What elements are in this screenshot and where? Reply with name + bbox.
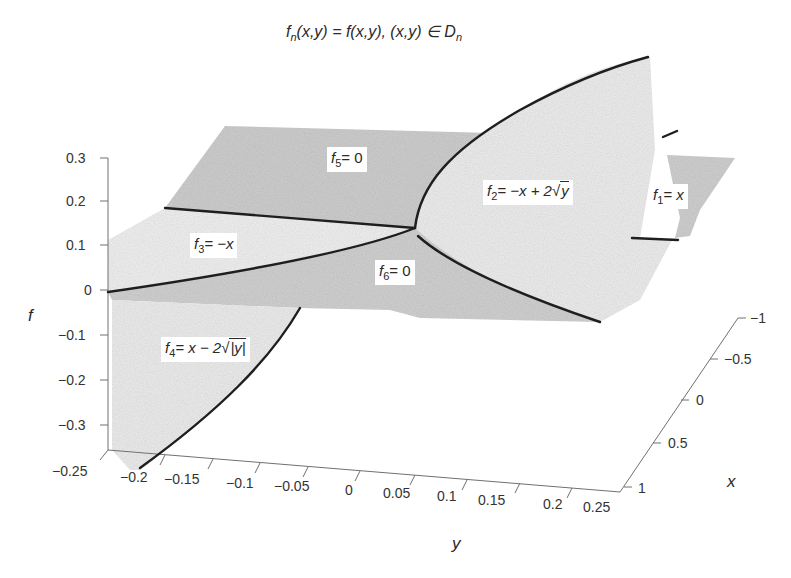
y-tick: −0.2 [120, 470, 148, 484]
label-f6: f6= 0 [375, 260, 415, 285]
label-f1: f1= x [649, 184, 688, 209]
z-tick: −0.3 [58, 418, 86, 432]
y-tick: 0.1 [437, 489, 456, 503]
y-tick: 0 [345, 483, 353, 497]
x-tick: −1 [750, 311, 766, 325]
z-tick: 0.1 [66, 238, 85, 252]
surface-f4 [112, 300, 300, 470]
x-tick: 0.5 [668, 436, 687, 450]
z-tick: 0.3 [66, 151, 85, 165]
y-tick: −0.05 [274, 479, 309, 493]
z-tick: 0 [84, 283, 92, 297]
y-tick: −0.1 [226, 476, 254, 490]
z-tick: −0.1 [58, 328, 86, 342]
y-tick: 0.05 [383, 486, 410, 500]
label-f5: f5= 0 [327, 147, 367, 172]
y-tick: −0.25 [52, 464, 87, 478]
z-axis-label: f [28, 307, 33, 324]
y-tick: 0.15 [478, 493, 505, 507]
z-tick: 0.2 [66, 194, 85, 208]
label-f3: f3= −x [190, 233, 237, 258]
chart-title: fn(x,y) = f(x,y), (x,y) ∈ Dn [286, 24, 462, 43]
x-tick: −0.5 [724, 352, 752, 366]
x-axis-label: x [727, 473, 736, 490]
z-tick: −0.2 [58, 373, 86, 387]
y-tick: 0.2 [543, 497, 562, 511]
x-tick: 1 [638, 481, 646, 495]
label-f4: f4= x − 2√|y| [161, 337, 250, 362]
y-tick: −0.15 [164, 472, 199, 486]
x-tick: 0 [696, 393, 704, 407]
curve-f1-top [663, 131, 677, 137]
y-axis-label: y [452, 535, 461, 552]
label-f2: f2= −x + 2√y [483, 180, 573, 205]
y-tick: 0.25 [583, 500, 610, 514]
